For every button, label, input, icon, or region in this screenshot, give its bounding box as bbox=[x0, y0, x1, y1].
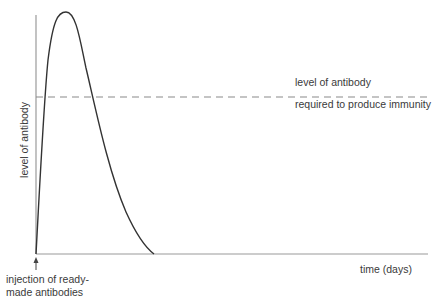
x-axis-label: time (days) bbox=[360, 263, 412, 276]
antibody-level-curve bbox=[36, 12, 154, 254]
injection-annotation-line2: made antibodies bbox=[6, 286, 83, 299]
injection-arrow-icon bbox=[34, 257, 39, 263]
chart-canvas bbox=[0, 0, 442, 306]
injection-annotation-line1: injection of ready- bbox=[6, 273, 89, 286]
threshold-label-line1: level of antibody bbox=[295, 76, 371, 89]
threshold-label-line2: required to produce immunity bbox=[295, 98, 431, 111]
y-axis-label: level of antibody bbox=[18, 102, 31, 178]
